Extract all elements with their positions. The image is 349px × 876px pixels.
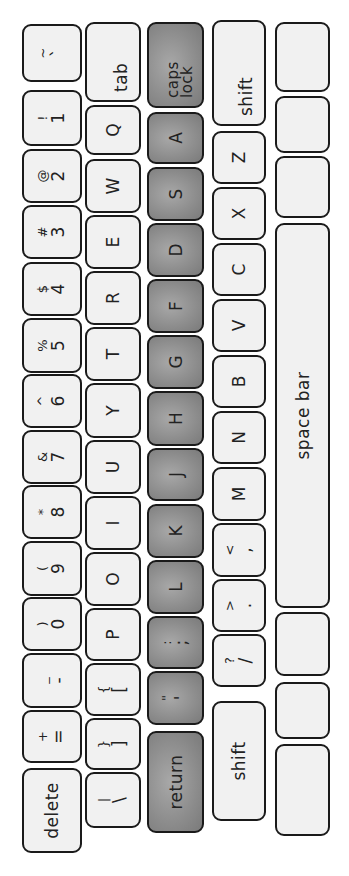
key-return[interactable]: return <box>147 731 204 833</box>
key-lbracket[interactable]: {[ <box>85 663 141 716</box>
key-label: - <box>50 677 68 683</box>
key-legend: ?/ <box>223 657 254 664</box>
key-blank3[interactable] <box>275 156 330 218</box>
key-e[interactable]: E <box>85 215 141 269</box>
key-tab[interactable]: tab <box>85 22 141 102</box>
key-blank6[interactable] <box>275 744 330 836</box>
key-l[interactable]: L <box>147 560 204 614</box>
key-period[interactable]: >. <box>212 579 266 632</box>
key-minus[interactable]: _- <box>22 653 82 708</box>
key-label: tab <box>111 63 131 92</box>
key-label: 9 <box>50 563 68 574</box>
key-comma[interactable]: <, <box>212 523 266 577</box>
key-label: space bar <box>293 372 313 460</box>
key-tilde[interactable]: ~` <box>22 24 82 82</box>
key-backslash[interactable]: |\ <box>85 772 141 828</box>
key-label: L <box>166 582 186 591</box>
key-v[interactable]: V <box>212 299 266 352</box>
key-j[interactable]: J <box>147 448 204 501</box>
key-label: P <box>103 629 123 639</box>
key-slash[interactable]: ?/ <box>212 634 266 687</box>
key-legend: )0 <box>36 619 67 630</box>
key-label: shift <box>236 77 256 116</box>
key-lshift[interactable]: shift <box>212 20 266 126</box>
key-rbracket[interactable]: }] <box>85 718 141 770</box>
key-label: ` <box>50 49 68 58</box>
key-blank1[interactable] <box>275 22 330 92</box>
key-blank4[interactable] <box>275 612 330 676</box>
key-label: \ <box>111 797 129 803</box>
key-legend: |\ <box>97 797 128 803</box>
key-n[interactable]: N <box>212 411 266 464</box>
key-2[interactable]: @2 <box>22 149 82 203</box>
key-g[interactable]: G <box>147 335 204 389</box>
key-b[interactable]: B <box>212 355 266 408</box>
key-x[interactable]: X <box>212 187 266 240</box>
key-label: , <box>237 547 255 552</box>
key-label: 3 <box>50 227 68 238</box>
key-rshift[interactable]: shift <box>212 701 266 821</box>
key-legend: (9 <box>36 563 67 574</box>
key-5[interactable]: %5 <box>22 318 82 373</box>
key-label: Z <box>229 152 249 164</box>
key-label: V <box>229 320 249 332</box>
key-y[interactable]: Y <box>85 383 141 438</box>
key-9[interactable]: (9 <box>22 541 82 596</box>
key-label: / <box>237 658 255 664</box>
key-delete[interactable]: delete <box>22 768 82 853</box>
key-label: shift <box>229 741 249 780</box>
key-3[interactable]: #3 <box>22 205 82 259</box>
key-p[interactable]: P <box>85 608 141 661</box>
key-legend: "' <box>160 695 191 701</box>
key-legend: !1 <box>36 113 67 124</box>
key-semicolon[interactable]: :; <box>147 616 204 669</box>
key-r[interactable]: R <box>85 271 141 325</box>
key-label: W <box>103 178 123 195</box>
key-q[interactable]: Q <box>85 105 141 155</box>
key-label: A <box>166 132 186 144</box>
key-d[interactable]: D <box>147 223 204 277</box>
key-legend: {[ <box>97 685 128 693</box>
key-label-line: lock <box>180 61 194 98</box>
key-label: 4 <box>50 284 68 295</box>
key-0[interactable]: )0 <box>22 597 82 651</box>
key-legend: :; <box>160 640 191 646</box>
key-6[interactable]: ^6 <box>22 374 82 428</box>
key-legend: &7 <box>36 452 67 463</box>
key-label: 7 <box>50 452 68 463</box>
key-c[interactable]: C <box>212 243 266 296</box>
key-w[interactable]: W <box>85 159 141 213</box>
key-label: ; <box>173 640 191 646</box>
key-blank2[interactable] <box>275 96 330 153</box>
key-4[interactable]: $4 <box>22 262 82 316</box>
key-label: C <box>229 264 249 276</box>
key-s[interactable]: S <box>147 167 204 221</box>
key-capslock[interactable]: capslock <box>147 22 204 108</box>
key-label: = <box>50 729 68 743</box>
key-quote[interactable]: "' <box>147 671 204 725</box>
key-h[interactable]: H <box>147 391 204 446</box>
key-legend: #3 <box>36 227 67 238</box>
key-label: ] <box>111 741 129 748</box>
key-7[interactable]: &7 <box>22 430 82 484</box>
key-a[interactable]: A <box>147 112 204 164</box>
key-equals[interactable]: += <box>22 710 82 763</box>
key-label: K <box>166 525 186 536</box>
key-8[interactable]: *8 <box>22 485 82 539</box>
key-u[interactable]: U <box>85 440 141 494</box>
key-m[interactable]: M <box>212 467 266 521</box>
key-o[interactable]: O <box>85 552 141 606</box>
key-label: 1 <box>50 113 68 124</box>
key-legend: %5 <box>36 339 67 351</box>
key-i[interactable]: I <box>85 496 141 550</box>
key-legend: @2 <box>36 170 67 183</box>
key-k[interactable]: K <box>147 504 204 558</box>
key-label: 5 <box>50 340 68 351</box>
key-f[interactable]: F <box>147 279 204 333</box>
key-t[interactable]: T <box>85 327 141 381</box>
key-label: J <box>166 472 186 477</box>
key-blank5[interactable] <box>275 682 330 739</box>
key-1[interactable]: !1 <box>22 90 82 146</box>
key-z[interactable]: Z <box>212 131 266 184</box>
key-spacebar[interactable]: space bar <box>275 223 330 608</box>
